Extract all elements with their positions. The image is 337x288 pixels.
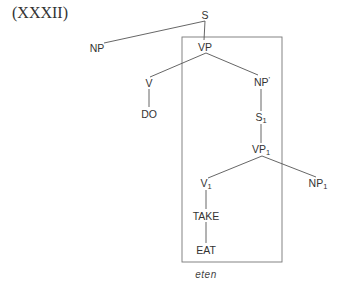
syntax-tree-diagram: (XXXII) SNPVPVNP'DOS1VP1V1NP1TAKEEAT ete… (0, 0, 337, 288)
tree-edge (206, 53, 258, 75)
node-take: TAKE (193, 211, 220, 222)
node-vp: VP (198, 42, 212, 53)
node-v1: V1 (200, 178, 211, 191)
node-np: NP (90, 43, 105, 54)
node-vp1: VP1 (252, 144, 270, 157)
tree-edge (262, 156, 316, 177)
tree-edge (150, 53, 206, 77)
node-npp: NP' (254, 76, 270, 88)
tree-edge (104, 21, 205, 43)
node-s: S (201, 10, 208, 21)
node-s1: S1 (255, 112, 266, 125)
node-np1: NP1 (309, 178, 328, 191)
node-eat: EAT (196, 245, 216, 256)
node-do: DO (141, 109, 157, 120)
gloss-eten: eten (195, 269, 216, 280)
tree-edges (0, 0, 337, 288)
tree-edge (208, 156, 262, 178)
node-v: V (145, 78, 152, 89)
